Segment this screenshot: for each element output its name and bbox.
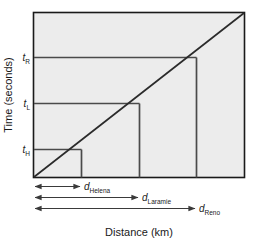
x-axis-title: Distance (km)	[105, 226, 173, 238]
distance-time-graph-figure: tR tL tH dHelena dLaramie dReno Distance…	[0, 0, 257, 246]
y-axis-title: Time (seconds)	[2, 57, 14, 132]
